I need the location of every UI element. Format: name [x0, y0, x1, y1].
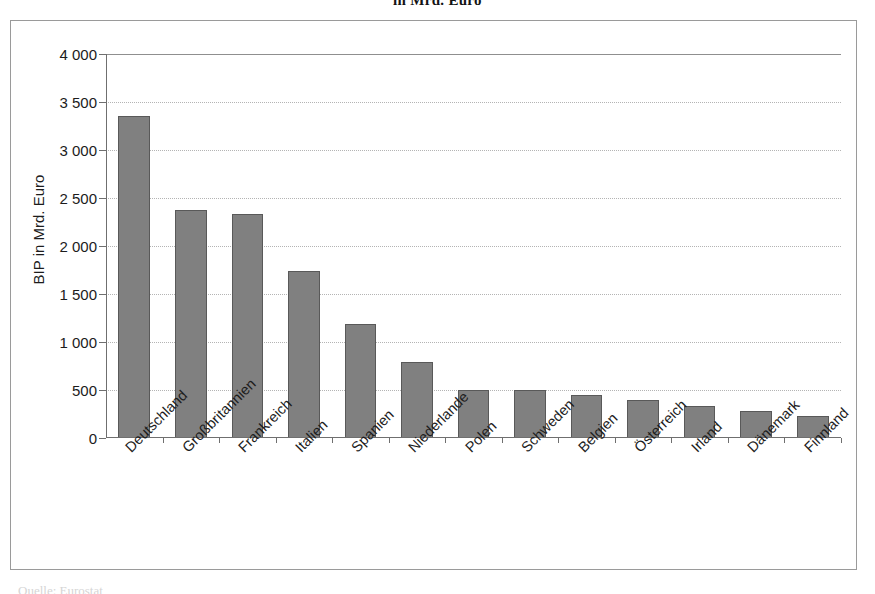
- y-axis-tick-labels: 05001 0001 5002 0002 5003 0003 5004 000: [33, 21, 97, 571]
- y-axis-tick-label: 500: [33, 382, 97, 399]
- y-axis-tick-label: 4 000: [33, 46, 97, 63]
- y-axis-tick-label: 0: [33, 430, 97, 447]
- x-axis-tick-labels: DeutschlandGroßbritannienFrankreichItali…: [106, 438, 841, 568]
- y-axis-tick: [99, 294, 106, 295]
- y-axis-tick-label: 3 500: [33, 94, 97, 111]
- footer-caption: Quelle: Eurostat: [18, 583, 103, 594]
- y-axis-tick: [99, 438, 106, 439]
- y-axis-tick: [99, 390, 106, 391]
- y-axis-tick-label: 2 000: [33, 238, 97, 255]
- y-axis-tick: [99, 150, 106, 151]
- y-axis-tick-label: 2 500: [33, 190, 97, 207]
- y-axis-tick-label: 1 500: [33, 286, 97, 303]
- bars-layer: [106, 54, 841, 438]
- bar: [288, 271, 320, 438]
- y-axis-tick: [99, 102, 106, 103]
- figure-frame: BIP in Mrd. Euro 05001 0001 5002 0002 50…: [10, 20, 857, 570]
- chart-headline: in Mrd. Euro: [0, 0, 875, 7]
- x-axis-tick: [841, 438, 842, 443]
- y-axis-tick: [99, 198, 106, 199]
- axes-area: [106, 54, 841, 438]
- y-axis-tick-label: 3 000: [33, 142, 97, 159]
- plot-container: BIP in Mrd. Euro 05001 0001 5002 0002 50…: [11, 21, 858, 571]
- y-axis-tick: [99, 54, 106, 55]
- y-axis-tick: [99, 246, 106, 247]
- y-axis-tick: [99, 342, 106, 343]
- y-axis-tick-label: 1 000: [33, 334, 97, 351]
- bar: [118, 116, 150, 438]
